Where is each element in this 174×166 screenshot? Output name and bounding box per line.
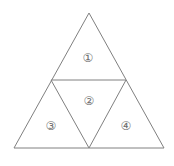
triangle-diagram: ① ② ③ ④ bbox=[0, 0, 174, 166]
triangle-figure bbox=[0, 0, 174, 166]
region-label-3: ③ bbox=[46, 120, 57, 132]
region-label-2: ② bbox=[84, 95, 95, 107]
region-label-4: ④ bbox=[121, 120, 132, 132]
region-label-1: ① bbox=[83, 52, 94, 64]
